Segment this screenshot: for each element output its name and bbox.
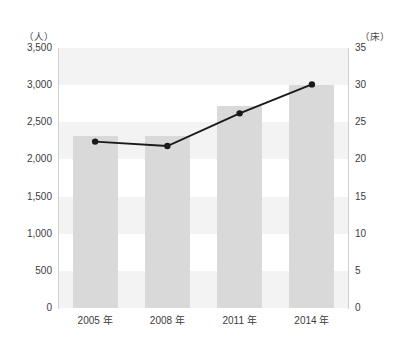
left-axis-tick-label: 0 [0, 302, 52, 313]
right-axis-tick-label: 10 [355, 228, 377, 239]
left-axis-tick-label: 2,000 [0, 153, 52, 164]
plot-area [59, 48, 348, 308]
line-series [59, 48, 348, 308]
left-axis-tick-label: 1,500 [0, 191, 52, 202]
combo-bar-line-chart: （人） （床） 3,5003,0002,5002,0001,5001,00050… [0, 0, 407, 341]
x-axis-tick-label: 2005 年 [55, 312, 135, 327]
left-axis-tick-label: 2,500 [0, 116, 52, 127]
left-axis-unit-label: （人） [24, 29, 54, 43]
x-axis-tick-label: 2008 年 [127, 312, 207, 327]
right-axis-spine [348, 48, 349, 309]
right-axis-tick-label: 25 [355, 116, 377, 127]
left-axis-spine [58, 48, 59, 309]
line-marker [236, 110, 242, 116]
right-axis-tick-label: 35 [355, 42, 377, 53]
right-axis-tick-label: 30 [355, 79, 377, 90]
line-marker [92, 138, 98, 144]
right-axis-tick-label: 20 [355, 153, 377, 164]
left-axis-tick-label: 3,000 [0, 79, 52, 90]
line-marker [164, 143, 170, 149]
x-axis-tick-label: 2014 年 [272, 312, 352, 327]
left-axis-tick-label: 1,000 [0, 228, 52, 239]
line-marker [309, 81, 315, 87]
right-axis-tick-label: 15 [355, 191, 377, 202]
right-axis-tick-label: 0 [355, 302, 377, 313]
right-axis-tick-label: 5 [355, 265, 377, 276]
line-path [95, 84, 312, 146]
left-axis-tick-label: 3,500 [0, 42, 52, 53]
x-axis-tick-label: 2011 年 [200, 312, 280, 327]
right-axis-unit-label: （床） [360, 29, 390, 43]
left-axis-tick-label: 500 [0, 265, 52, 276]
